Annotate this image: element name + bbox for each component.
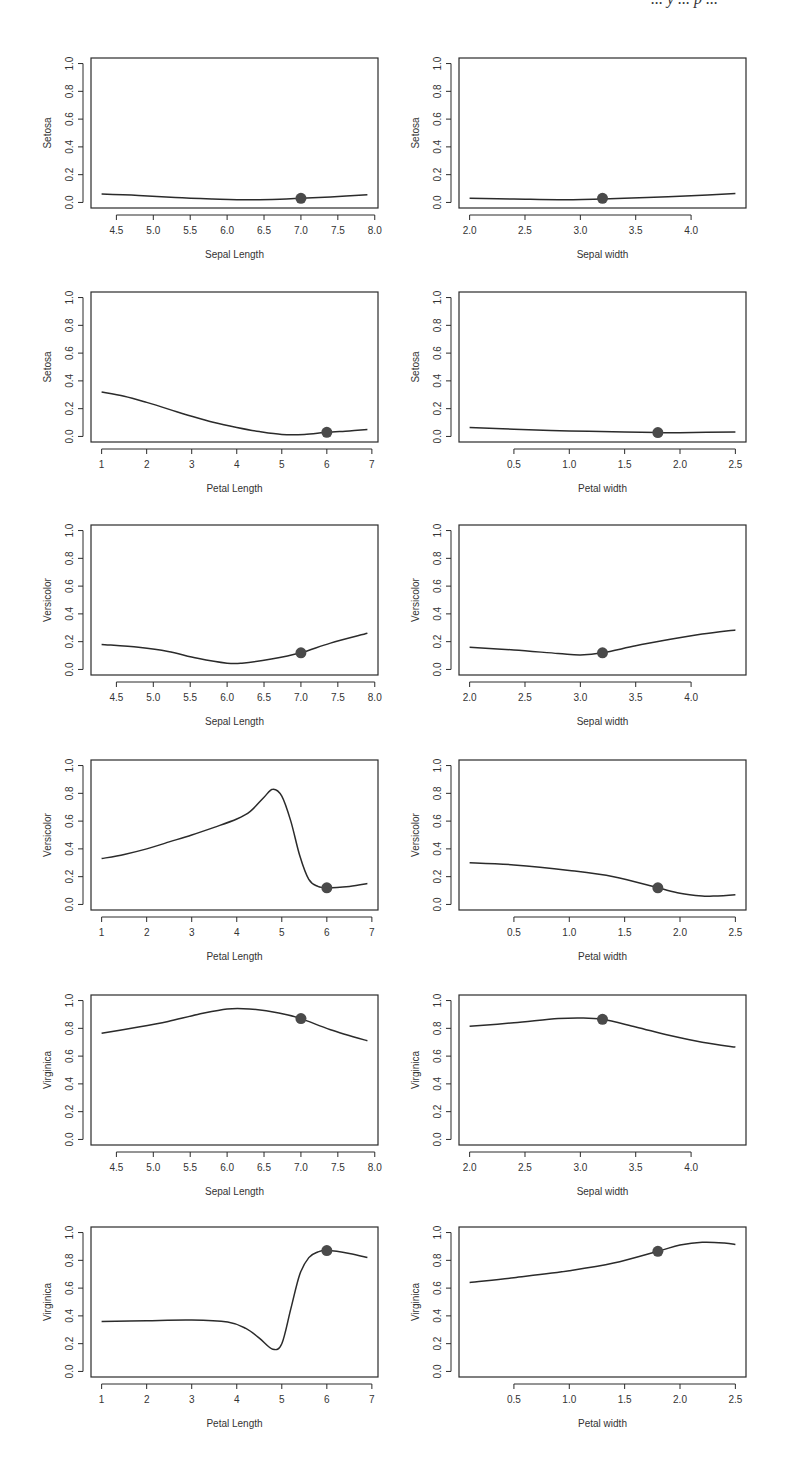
x-tick-label: 2.0 xyxy=(673,1394,687,1405)
observation-point-marker xyxy=(652,1246,663,1257)
y-axis-label: Virginica xyxy=(410,1282,421,1321)
plot-virginica-petal-width: 0.00.20.40.60.81.0Virginica0.51.01.52.02… xyxy=(0,0,788,1458)
y-tick-label: 0.4 xyxy=(432,1309,443,1323)
x-tick-label: 0.5 xyxy=(507,1394,521,1405)
plot-frame xyxy=(459,1227,746,1377)
y-tick-label: 0.8 xyxy=(432,1253,443,1267)
x-axis: 0.51.01.52.02.5Petal width xyxy=(507,1384,743,1429)
x-axis-label: Petal width xyxy=(578,1418,627,1429)
x-tick-label: 1.0 xyxy=(562,1394,576,1405)
x-tick-label: 2.5 xyxy=(728,1394,742,1405)
y-tick-label: 0.6 xyxy=(432,1281,443,1295)
y-tick-label: 0.0 xyxy=(432,1364,443,1378)
x-tick-label: 1.5 xyxy=(618,1394,632,1405)
y-axis: 0.00.20.40.60.81.0Virginica xyxy=(410,1225,451,1378)
y-tick-label: 1.0 xyxy=(432,1225,443,1239)
probability-curve xyxy=(470,1242,736,1282)
y-tick-label: 0.2 xyxy=(432,1336,443,1350)
